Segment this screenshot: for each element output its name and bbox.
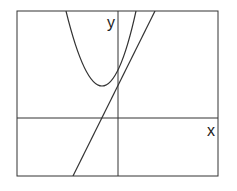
coordinate-diagram — [0, 0, 237, 191]
y-axis-label: y — [107, 15, 115, 31]
x-axis-label: x — [207, 123, 215, 139]
parabola-curve — [66, 11, 136, 86]
straight-line — [73, 11, 155, 176]
